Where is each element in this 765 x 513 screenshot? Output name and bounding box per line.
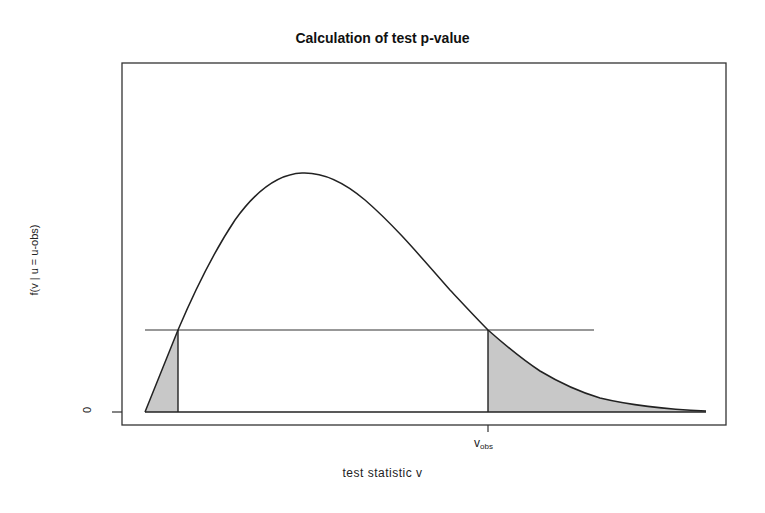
- x-tick-label-vobs: vobs: [474, 436, 493, 451]
- plot-area: [0, 0, 765, 513]
- right-tail-shade: [488, 330, 706, 412]
- y-tick-label-zero: 0: [81, 407, 93, 413]
- x-tick-sub: obs: [480, 442, 493, 451]
- density-curve: [145, 173, 706, 412]
- x-axis-label: test statistic v: [0, 466, 765, 480]
- plot-frame: [122, 63, 726, 425]
- y-axis-label: f(v | u = u-obs): [28, 224, 40, 295]
